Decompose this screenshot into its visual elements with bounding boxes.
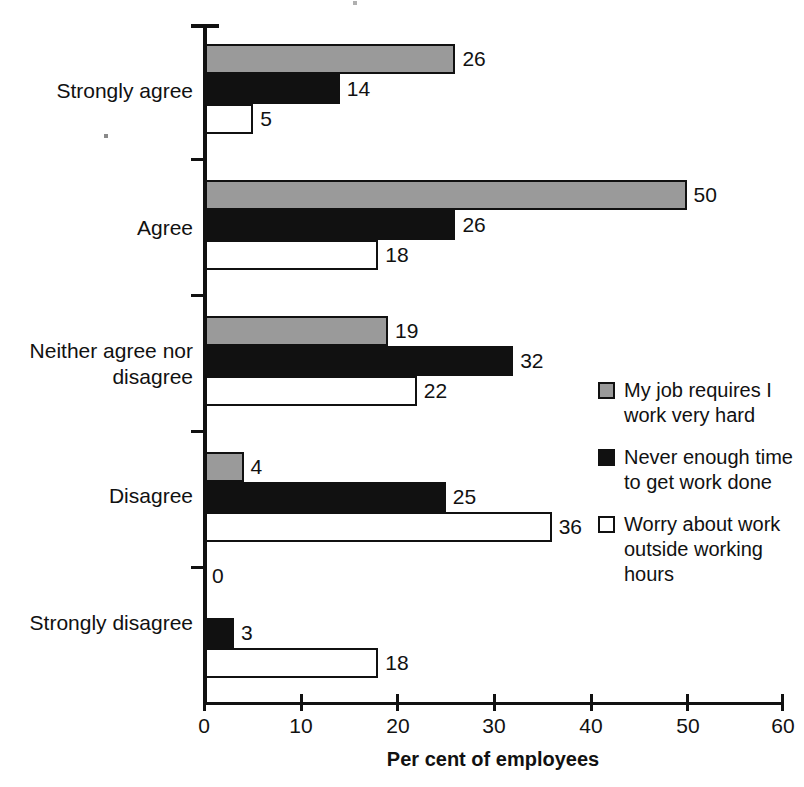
bar-disagree-worry-outside [205, 512, 552, 542]
bar-agree-never-enough-time [205, 210, 455, 240]
x-axis-tick-10 [300, 694, 303, 711]
scan-artifact-speck-top [353, 1, 357, 5]
x-tick-label-60: 60 [753, 714, 804, 738]
x-tick-label-10: 10 [271, 714, 331, 738]
x-axis-title: Per cent of employees [203, 748, 783, 771]
scan-artifact-speck [104, 134, 108, 138]
x-axis-tick-30 [493, 694, 496, 711]
bar-strongly-agree-job-hard [205, 44, 455, 74]
bar-value-disagree-job-hard: 4 [251, 455, 263, 479]
bar-strongly-disagree-never-enough-time [205, 618, 234, 648]
bar-value-disagree-worry-outside: 36 [559, 515, 582, 539]
bar-strongly-agree-never-enough-time [205, 74, 340, 104]
x-axis-tick-40 [590, 694, 593, 711]
y-axis-tick [191, 158, 207, 161]
bar-value-disagree-never-enough-time: 25 [453, 485, 476, 509]
bar-strongly-agree-worry-outside [205, 104, 253, 134]
x-tick-label-50: 50 [658, 714, 718, 738]
category-label-strongly-agree: Strongly agree [56, 78, 193, 104]
x-tick-label-30: 30 [464, 714, 524, 738]
bar-value-strongly-agree-never-enough-time: 14 [347, 77, 370, 101]
x-axis-tick-60 [781, 694, 784, 711]
y-axis-tick-top [191, 24, 219, 28]
x-tick-label-20: 20 [368, 714, 428, 738]
y-axis-tick [191, 430, 207, 433]
bar-neither-worry-outside [205, 376, 417, 406]
bar-value-agree-job-hard: 50 [694, 183, 717, 207]
bar-neither-never-enough-time [205, 346, 513, 376]
legend-label: My job requires I work very hard [624, 378, 804, 428]
bar-agree-worry-outside [205, 240, 378, 270]
x-axis-tick-50 [686, 694, 689, 711]
bar-neither-job-hard [205, 316, 388, 346]
legend-label: Never enough time to get work done [624, 445, 804, 495]
bar-value-agree-never-enough-time: 26 [462, 213, 485, 237]
x-axis-tick-20 [396, 694, 399, 711]
bar-value-strongly-disagree-never-enough-time: 3 [241, 621, 253, 645]
legend-item-never-enough-time[interactable]: Never enough time to get work done [598, 445, 804, 495]
bar-strongly-disagree-worry-outside [205, 648, 378, 678]
bar-value-strongly-disagree-worry-outside: 18 [385, 651, 408, 675]
bar-value-neither-job-hard: 19 [395, 319, 418, 343]
category-label-strongly-disagree: Strongly disagree [30, 610, 193, 636]
legend-item-worry-about-work[interactable]: Worry about work outside working hours [598, 512, 804, 587]
black-swatch-icon [598, 449, 615, 466]
x-axis-tick-0 [203, 694, 206, 711]
bar-value-strongly-agree-job-hard: 26 [462, 47, 485, 71]
legend-item-my-job-requires[interactable]: My job requires I work very hard [598, 378, 804, 428]
y-axis-tick [191, 566, 207, 569]
bar-value-agree-worry-outside: 18 [385, 243, 408, 267]
bar-value-neither-never-enough-time: 32 [520, 349, 543, 373]
bar-agree-job-hard [205, 180, 687, 210]
bar-disagree-never-enough-time [205, 482, 446, 512]
x-tick-label-40: 40 [561, 714, 621, 738]
bar-value-neither-worry-outside: 22 [424, 379, 447, 403]
y-axis-tick [191, 294, 207, 297]
white-swatch-icon [598, 516, 615, 533]
bar-value-strongly-disagree-job-hard: 0 [212, 564, 224, 588]
legend-label: Worry about work outside working hours [624, 512, 804, 587]
category-label-agree: Agree [137, 215, 193, 241]
category-label-neither: Neither agree nor disagree [30, 338, 193, 390]
bar-chart: 0 10 20 30 40 50 60 Per cent of employee… [0, 0, 804, 787]
x-tick-label-0: 0 [174, 714, 234, 738]
bar-value-strongly-agree-worry-outside: 5 [260, 107, 272, 131]
gray-swatch-icon [598, 382, 615, 399]
bar-disagree-job-hard [205, 452, 244, 482]
category-label-disagree: Disagree [109, 483, 193, 509]
legend: My job requires I work very hard Never e… [598, 378, 804, 604]
